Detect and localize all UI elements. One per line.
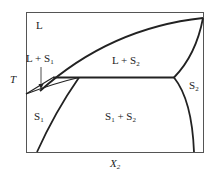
solidus-s2: [174, 18, 203, 78]
region-label-l-plus-s1: L + S1: [26, 53, 54, 68]
phase-diagram-plot: [0, 0, 216, 176]
region-label-s1: S1: [34, 111, 44, 126]
region-label-liquid: L: [36, 20, 43, 31]
region-label-s2: S2: [189, 80, 199, 95]
y-axis-label: T: [10, 74, 16, 85]
x-axis-label: X2: [110, 158, 120, 173]
region-label-s1-plus-s2: S1 + S2: [105, 111, 136, 126]
region-label-l-plus-s2: L + S2: [112, 55, 140, 70]
